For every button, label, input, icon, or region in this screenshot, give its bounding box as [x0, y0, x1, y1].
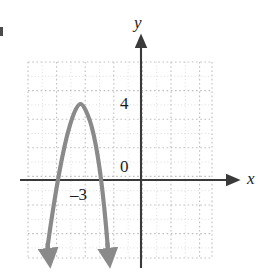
graph-figure: y x 4 0 –3 — [0, 0, 274, 278]
curve-arrow-left — [48, 243, 49, 250]
x-intercept-label: –3 — [70, 186, 87, 203]
clipped-edge-mark — [0, 27, 3, 36]
curve-arrow-right — [107, 243, 108, 250]
y-tick-label-4: 4 — [120, 95, 129, 112]
x-axis-label: x — [247, 170, 255, 187]
coordinate-plane-svg — [0, 0, 274, 278]
origin-label: 0 — [120, 158, 129, 175]
y-axis-label: y — [134, 14, 142, 31]
